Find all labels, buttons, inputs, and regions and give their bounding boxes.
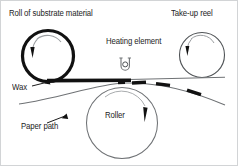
label-paper-path: Paper path xyxy=(21,122,58,130)
label-heating-element: Heating element xyxy=(106,37,161,45)
label-wax: Wax xyxy=(12,83,27,91)
takeup-reel-icon xyxy=(180,33,225,78)
diagram-canvas: Roll of substrate material Take-up reel … xyxy=(0,0,238,166)
roller-icon xyxy=(87,88,158,159)
substrate-web-bare xyxy=(129,77,225,79)
supply-roll-icon xyxy=(23,31,74,82)
label-take-up-reel: Take-up reel xyxy=(171,9,213,17)
label-roll-of-substrate-material: Roll of substrate material xyxy=(9,9,93,17)
label-roller: Roller xyxy=(105,111,125,119)
heating-element-icon xyxy=(119,58,131,70)
diagram-graphics xyxy=(1,1,238,166)
